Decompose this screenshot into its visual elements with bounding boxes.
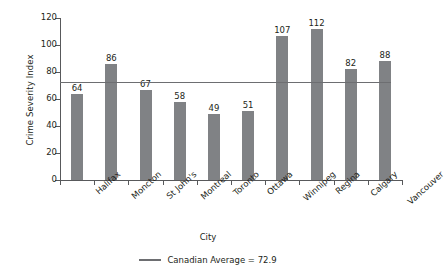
- x-axis-tick: [197, 180, 198, 185]
- bar: [174, 102, 186, 180]
- legend: Canadian Average = 72.9: [0, 255, 416, 265]
- plot-area: 020406080100120 6486675849511071128288: [60, 18, 402, 180]
- bar-value-label: 107: [265, 25, 299, 35]
- x-axis-title: City: [0, 232, 416, 242]
- bar-value-label: 88: [368, 50, 402, 60]
- bar: [71, 94, 83, 180]
- y-axis-tick-label: 0: [52, 174, 57, 184]
- x-axis-tick: [334, 180, 335, 185]
- bar-value-label: 67: [129, 79, 163, 89]
- x-axis-tick: [368, 180, 369, 185]
- y-axis-tick-label: 20: [46, 147, 57, 157]
- bar-value-label: 49: [197, 103, 231, 113]
- y-axis-tick-label: 40: [46, 120, 57, 130]
- bar-value-label: 58: [163, 91, 197, 101]
- y-axis-title: Crime Severity Index: [22, 10, 38, 190]
- bar-value-label: 86: [94, 53, 128, 63]
- x-axis-tick: [231, 180, 232, 185]
- y-axis-line: [60, 18, 61, 180]
- bar-value-label: 112: [300, 18, 334, 28]
- bar: [345, 69, 357, 180]
- x-axis-tick: [265, 180, 266, 185]
- bar: [311, 29, 323, 180]
- x-axis-label: Vancouver: [405, 169, 445, 206]
- x-axis-tick: [60, 180, 61, 185]
- bar: [208, 114, 220, 180]
- y-axis-tick-label: 120: [41, 12, 57, 22]
- x-axis-tick: [94, 180, 95, 185]
- bar-value-label: 82: [334, 58, 368, 68]
- bar: [140, 90, 152, 180]
- y-axis-tick-label: 60: [46, 93, 57, 103]
- bar: [379, 61, 391, 180]
- x-axis-tick: [402, 180, 403, 185]
- average-reference-line: [60, 82, 391, 83]
- x-axis-tick: [299, 180, 300, 185]
- y-axis-tick-label: 80: [46, 66, 57, 76]
- legend-line-swatch: [139, 259, 161, 261]
- x-axis-tick: [163, 180, 164, 185]
- bar-value-label: 51: [231, 100, 265, 110]
- y-axis-tick-label: 100: [41, 39, 57, 49]
- bar-value-label: 64: [60, 83, 94, 93]
- bar: [276, 36, 288, 180]
- x-axis-tick: [128, 180, 129, 185]
- legend-label: Canadian Average = 72.9: [167, 255, 276, 265]
